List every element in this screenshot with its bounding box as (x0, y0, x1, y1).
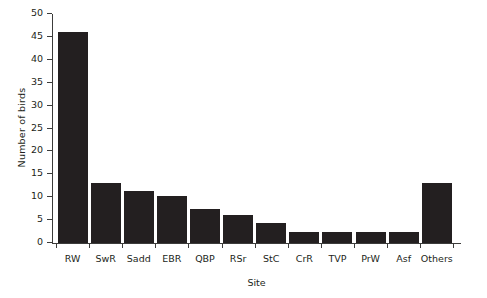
x-axis-title: Site (52, 277, 461, 288)
y-axis-tick: 5 (47, 219, 52, 220)
y-axis-tick-label: 20 (31, 144, 43, 155)
x-axis-tick (420, 243, 421, 248)
x-axis-tick (188, 243, 189, 248)
plot-area: 05101520253035404550 RWSwRSaddEBRQBPRSrS… (52, 14, 461, 243)
bar-chart-figure: Number of birds 05101520253035404550 RWS… (0, 0, 487, 298)
bar (422, 183, 452, 243)
bar (157, 196, 187, 243)
bar (91, 183, 121, 243)
x-axis-tick (288, 243, 289, 248)
y-axis-title: Number of birds (16, 68, 27, 188)
y-axis-tick-label: 45 (31, 30, 43, 41)
y-axis-tick: 30 (47, 105, 52, 106)
y-axis-tick-label: 50 (31, 7, 43, 18)
bar (124, 191, 154, 243)
bar (389, 232, 419, 243)
bar (58, 32, 88, 243)
y-axis-tick-label: 40 (31, 53, 43, 64)
y-axis-tick: 35 (47, 82, 52, 83)
y-axis-tick-label: 30 (31, 99, 43, 110)
bar (322, 232, 352, 243)
x-axis-tick-label: Others (397, 253, 477, 264)
x-axis-line (52, 243, 461, 244)
x-axis-tick (453, 243, 454, 248)
x-axis-tick (387, 243, 388, 248)
x-axis-tick (255, 243, 256, 248)
y-axis-tick: 20 (47, 150, 52, 151)
y-axis-tick-label: 25 (31, 122, 43, 133)
y-axis-tick-label: 35 (31, 76, 43, 87)
bar (190, 209, 220, 243)
y-axis-tick: 40 (47, 59, 52, 60)
x-axis-tick (122, 243, 123, 248)
y-axis-tick-label: 15 (31, 167, 43, 178)
y-axis-tick: 25 (47, 128, 52, 129)
x-axis-tick (222, 243, 223, 248)
y-axis-tick: 45 (47, 36, 52, 37)
y-axis-tick: 10 (47, 196, 52, 197)
bar (223, 215, 253, 243)
bar (289, 232, 319, 243)
y-axis-tick: 0 (47, 242, 52, 243)
x-axis-tick (56, 243, 57, 248)
x-axis-tick (89, 243, 90, 248)
y-axis-tick: 50 (47, 13, 52, 14)
y-axis-tick-label: 0 (37, 236, 43, 247)
y-axis-tick: 15 (47, 173, 52, 174)
bar (256, 223, 286, 243)
x-axis-tick (321, 243, 322, 248)
y-axis-tick-label: 5 (37, 213, 43, 224)
x-axis-tick (354, 243, 355, 248)
bar (356, 232, 386, 243)
x-axis-tick (155, 243, 156, 248)
y-axis-tick-label: 10 (31, 190, 43, 201)
